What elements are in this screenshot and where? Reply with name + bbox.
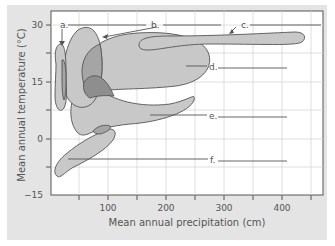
y-tick-neg15: −15 — [24, 190, 43, 200]
x-tick-200: 200 — [157, 203, 174, 213]
callout-b: b. — [151, 20, 160, 30]
x-tick-100: 100 — [99, 203, 116, 213]
callout-f: f. — [210, 155, 215, 165]
callout-c: c. — [241, 20, 249, 30]
overlap-a-b — [62, 60, 66, 100]
callout-a: a. — [60, 20, 68, 30]
x-axis-title: Mean annual precipitation (cm) — [109, 217, 266, 228]
x-tick-400: 400 — [273, 203, 290, 213]
biome-climate-diagram: a. b. c. d. e. f. 30 15 0 −15 100 200 30… — [0, 0, 335, 246]
callout-e: e. — [209, 111, 217, 121]
x-tick-300: 300 — [215, 203, 232, 213]
y-axis-title: Mean annual temperature (°C) — [16, 28, 27, 182]
y-tick-30: 30 — [32, 20, 44, 30]
callout-d: d. — [209, 62, 218, 72]
y-tick-0: 0 — [37, 134, 43, 144]
y-tick-15: 15 — [32, 77, 43, 87]
